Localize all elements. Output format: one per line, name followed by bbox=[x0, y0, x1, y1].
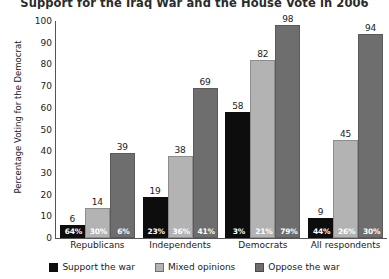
y-axis-tick: 90 bbox=[26, 38, 52, 48]
bar-share-label: 6% bbox=[111, 227, 136, 236]
y-axis-tick: 100 bbox=[26, 16, 52, 26]
bar-share-label: 30% bbox=[86, 227, 111, 236]
legend-item: Support the war bbox=[49, 262, 135, 272]
bar-value-label: 9 bbox=[308, 207, 333, 217]
bar-share-label: 64% bbox=[61, 227, 86, 236]
bar-share-label: 3% bbox=[226, 227, 251, 236]
bar-share-label: 79% bbox=[276, 227, 301, 236]
y-axis-tick: 50 bbox=[26, 125, 52, 135]
legend-swatch-icon bbox=[255, 263, 264, 272]
bar-share-label: 41% bbox=[194, 227, 219, 236]
bar: 64% bbox=[60, 225, 85, 238]
y-axis-tick: 80 bbox=[26, 59, 52, 69]
bar-share-label: 30% bbox=[359, 227, 384, 236]
bar-group: 44%926%4530%94 bbox=[308, 21, 383, 238]
bar-value-label: 38 bbox=[168, 145, 193, 155]
bar-value-label: 82 bbox=[250, 49, 275, 59]
bar-group: 23%1936%3841%69 bbox=[143, 21, 218, 238]
bar-share-label: 23% bbox=[144, 227, 169, 236]
y-axis-title: Percentage Voting for the Democrat bbox=[13, 7, 23, 227]
x-axis-category-label: All respondents bbox=[304, 240, 387, 250]
legend-label: Oppose the war bbox=[268, 262, 339, 272]
chart-title: Support for the Iraq War and the House V… bbox=[0, 0, 389, 9]
bar-value-label: 19 bbox=[143, 186, 168, 196]
bar-share-label: 36% bbox=[169, 227, 194, 236]
y-axis-tick: 10 bbox=[26, 211, 52, 221]
bar: 36% bbox=[168, 156, 193, 238]
bar-value-label: 94 bbox=[358, 23, 383, 33]
bar-value-label: 98 bbox=[275, 14, 300, 24]
bar-group: 64%630%146%39 bbox=[60, 21, 135, 238]
bar-share-label: 26% bbox=[334, 227, 359, 236]
x-axis-line bbox=[55, 238, 387, 239]
bar-value-label: 6 bbox=[60, 214, 85, 224]
x-axis-category-labels: RepublicansIndependentsDemocratsAll resp… bbox=[56, 240, 387, 254]
y-axis-tick: 70 bbox=[26, 81, 52, 91]
bar: 21% bbox=[250, 60, 275, 238]
bar: 30% bbox=[85, 208, 110, 238]
legend-label: Support the war bbox=[62, 262, 135, 272]
bar: 6% bbox=[110, 153, 135, 238]
x-axis-category-label: Republicans bbox=[56, 240, 139, 250]
bar-value-label: 14 bbox=[85, 197, 110, 207]
bar-value-label: 39 bbox=[110, 142, 135, 152]
legend-label: Mixed opinions bbox=[168, 262, 235, 272]
bar-share-label: 21% bbox=[251, 227, 276, 236]
bar-value-label: 58 bbox=[225, 101, 250, 111]
bar: 44% bbox=[308, 218, 333, 238]
legend-swatch-icon bbox=[49, 263, 58, 272]
x-axis-category-label: Independents bbox=[139, 240, 222, 250]
plot-area: 64%630%146%3923%1936%3841%693%5821%8279%… bbox=[56, 21, 387, 238]
legend-item: Mixed opinions bbox=[155, 262, 235, 272]
y-axis-tick: 40 bbox=[26, 146, 52, 156]
bar: 26% bbox=[333, 140, 358, 238]
bar-value-label: 45 bbox=[333, 129, 358, 139]
legend-swatch-icon bbox=[155, 263, 164, 272]
bar-value-label: 69 bbox=[193, 77, 218, 87]
bar: 23% bbox=[143, 197, 168, 238]
bar-group: 3%5821%8279%98 bbox=[225, 21, 300, 238]
bar: 41% bbox=[193, 88, 218, 238]
bar: 30% bbox=[358, 34, 383, 238]
y-axis-tick: 30 bbox=[26, 168, 52, 178]
y-axis-tick: 0 bbox=[26, 233, 52, 243]
y-axis-tick-labels: 0102030405060708090100 bbox=[24, 16, 56, 244]
x-axis-category-label: Democrats bbox=[222, 240, 305, 250]
bar: 3% bbox=[225, 112, 250, 238]
legend-item: Oppose the war bbox=[255, 262, 339, 272]
bar: 79% bbox=[275, 25, 300, 238]
chart-legend: Support the warMixed opinionsOppose the … bbox=[0, 262, 389, 272]
bar-share-label: 44% bbox=[309, 227, 334, 236]
y-axis-tick: 60 bbox=[26, 103, 52, 113]
y-axis-tick: 20 bbox=[26, 190, 52, 200]
bar-chart: Support for the Iraq War and the House V… bbox=[0, 0, 389, 279]
